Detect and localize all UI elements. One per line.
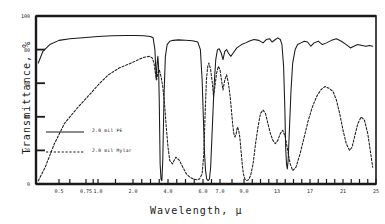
x-tick-25: 25 [363, 188, 385, 194]
y-tick-0: 0 [8, 181, 30, 187]
y-tick-20: 20 [8, 147, 30, 153]
y-tick-100: 100 [8, 13, 30, 19]
y-tick-40: 40 [8, 114, 30, 120]
plot-frame [36, 16, 376, 184]
ir-transmittance-chart: Transmittance, % Wavelength, μ 020406080… [0, 0, 385, 224]
y-axis-title: Transmittance, % [21, 18, 32, 178]
x-axis-title: Wavelength, μ [150, 205, 243, 216]
y-tick-80: 80 [8, 47, 30, 53]
x-tick-0.5: 0.5 [46, 188, 72, 194]
x-tick-1.0: 1.0 [85, 188, 111, 194]
legend-label-1: 2.0 mil PE [92, 128, 123, 133]
x-tick-4.0: 4.0 [155, 188, 181, 194]
x-tick-21: 21 [330, 188, 356, 194]
x-tick-9.0: 9.0 [231, 188, 257, 194]
legend-label-2: 2.0 mil Mylar [92, 148, 132, 153]
axis-tickmarks [36, 16, 376, 184]
x-tick-17: 17 [297, 188, 323, 194]
x-tick-13: 13 [264, 188, 290, 194]
series-layer [38, 35, 372, 180]
x-tick-7.0: 7.0 [207, 188, 233, 194]
y-tick-60: 60 [8, 80, 30, 86]
legend-swatches [46, 132, 84, 152]
x-tick-2.0: 2.0 [120, 188, 146, 194]
